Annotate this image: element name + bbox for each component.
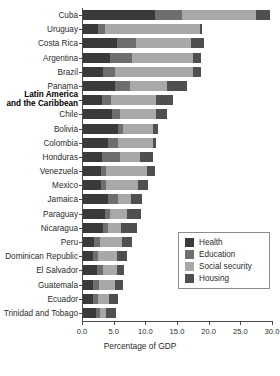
y-axis-tick [79,72,82,73]
bar-segment-housing [193,53,201,63]
stacked-bar [83,209,141,219]
category-label: Paraguay [43,209,78,218]
bar-segment-health [83,251,93,261]
x-axis-tick [82,321,83,325]
stacked-bar [83,138,156,148]
bar-segment-health [83,138,108,148]
bar-segment-social-security [130,81,167,91]
legend-swatch-education [185,250,194,259]
chart-row: Jamaica [82,192,272,206]
y-axis-tick [79,299,82,300]
chart-row: Chile [82,107,272,121]
bar-segment-housing [200,24,203,34]
category-label: Trinidad and Tobago [4,308,78,317]
y-axis-tick [79,157,82,158]
bar-segment-housing [140,152,153,162]
y-axis-tick [79,214,82,215]
stacked-bar [83,124,158,134]
y-axis-tick [79,129,82,130]
bar-segment-health [83,265,97,275]
bar-segment-social-security [136,38,190,48]
stacked-bar [83,24,202,34]
category-label: Venezuela [40,167,78,176]
bar-segment-social-security [98,251,118,261]
bar-segment-social-security [106,166,147,176]
bar-segment-education [102,95,111,105]
chart-row: Argentina [82,51,272,65]
category-label: Jamaica [48,195,79,204]
x-axis-tick-label: 25.0 [233,327,248,336]
y-axis-tick [79,185,82,186]
chart-row: Latin Americaand the Caribbean [82,93,272,107]
bar-segment-social-security [118,138,152,148]
stacked-bar [83,81,188,91]
y-axis-tick [79,43,82,44]
bar-segment-health [83,81,115,91]
bar-segment-health [83,223,103,233]
bar-segment-social-security [106,180,138,190]
y-axis-tick [79,171,82,172]
legend: Health Education Social security Housing [178,232,270,289]
bar-segment-education [102,152,120,162]
bar-segment-health [83,280,93,290]
legend-label-housing: Housing [199,274,229,283]
x-axis-tick [209,321,210,325]
category-label: El Salvador [36,266,78,275]
y-axis-tick [79,114,82,115]
bar-segment-education [108,194,118,204]
y-axis-tick [79,270,82,271]
chart-row: Trinidad and Tobago [82,306,272,320]
bar-segment-housing [156,109,167,119]
bar-segment-social-security [132,53,192,63]
category-label: Argentina [43,53,78,62]
bar-segment-health [83,53,110,63]
x-axis-tick-label: 10.0 [138,327,153,336]
bar-segment-housing [193,67,201,77]
chart-row: Brazil [82,65,272,79]
x-axis-tick [145,321,146,325]
bar-segment-education [112,109,120,119]
category-label: Cuba [58,11,78,20]
legend-swatch-social-security [185,262,194,271]
stacked-bar [83,166,155,176]
y-axis-tick [79,29,82,30]
stacked-bar [83,280,123,290]
chart-row: Panama [82,79,272,93]
bar-segment-education [115,81,130,91]
x-axis-tick-label: 5.0 [108,327,119,336]
stacked-bar [83,109,167,119]
category-label: Costa Rica [38,39,78,48]
category-label: Peru [61,237,78,246]
bar-segment-social-security [120,109,156,119]
legend-swatch-housing [185,274,194,283]
x-axis-title: Percentage of GDP [0,341,280,351]
stacked-bar [83,251,127,261]
stacked-bar [83,194,142,204]
bar-segment-social-security [98,294,109,304]
stacked-bar-chart: CubaUruguayCosta RicaArgentinaBrazilPana… [0,0,280,376]
bar-segment-housing [153,124,159,134]
category-label: Dominican Republic [5,252,78,261]
category-label: Latin Americaand the Caribbean [7,92,78,109]
bar-segment-social-security [120,152,140,162]
bar-segment-housing [147,166,155,176]
bar-segment-social-security [123,124,153,134]
bar-segment-health [83,237,94,247]
bar-segment-education [117,38,136,48]
legend-label-education: Education [199,250,235,259]
y-axis-tick [79,285,82,286]
x-axis-tick-label: 20.0 [201,327,216,336]
bar-segment-education [103,67,114,77]
bar-segment-health [83,24,98,34]
y-axis-tick [79,228,82,229]
legend-item-housing: Housing [185,274,264,283]
bar-segment-health [83,38,117,48]
legend-swatch-health [185,238,194,247]
bar-segment-housing [122,237,132,247]
bar-segment-health [83,124,118,134]
category-label: Guatemala [38,280,78,289]
bar-segment-social-security [105,24,200,34]
bar-segment-housing [138,180,148,190]
x-axis-tick-label: 0.0 [77,327,88,336]
y-axis-tick [79,15,82,16]
